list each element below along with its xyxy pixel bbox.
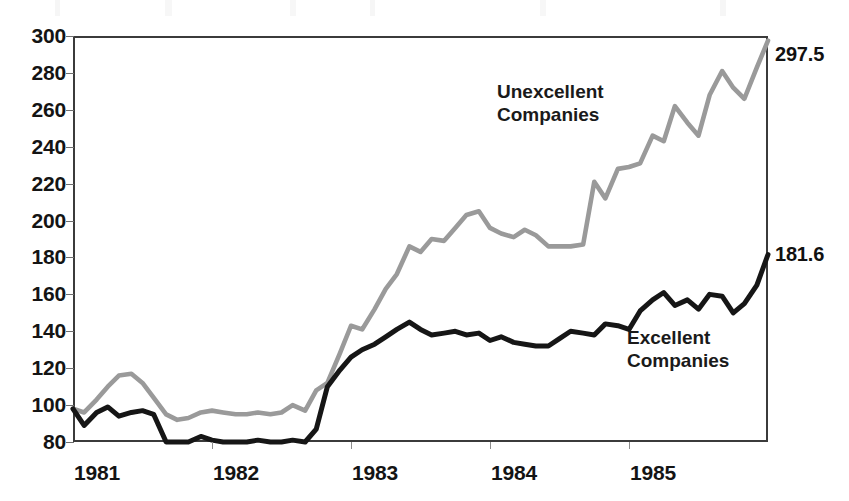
y-axis-tick-mark bbox=[66, 221, 74, 222]
chart-container: 30028026024022020018016014012010080 297.… bbox=[0, 0, 849, 501]
y-axis-tick-label: 80 bbox=[2, 431, 66, 452]
x-axis-tick-mark bbox=[490, 442, 491, 449]
end-value-label-excellent: 181.6 bbox=[775, 244, 824, 264]
y-axis-tick-label: 280 bbox=[2, 62, 66, 83]
y-axis-tick-mark bbox=[66, 294, 74, 295]
x-axis-tick-label: 1981 bbox=[74, 462, 120, 483]
annotation-excellent-line2: Companies bbox=[627, 349, 729, 372]
y-axis-tick-label: 140 bbox=[2, 320, 66, 341]
annotation-unexcellent-line1: Unexcellent bbox=[497, 80, 604, 103]
x-axis-tick-label: 1982 bbox=[213, 462, 259, 483]
x-axis-tick-mark bbox=[629, 442, 630, 449]
y-axis-tick-label: 200 bbox=[2, 210, 66, 231]
y-axis-tick-mark bbox=[66, 331, 74, 332]
annotation-excellent-line1: Excellent bbox=[627, 326, 729, 349]
y-axis-tick-label: 120 bbox=[2, 357, 66, 378]
y-axis-tick-mark bbox=[66, 442, 74, 443]
y-axis-tick-label: 100 bbox=[2, 394, 66, 415]
x-axis-tick-label: 1983 bbox=[352, 462, 398, 483]
y-axis-tick-mark bbox=[66, 184, 74, 185]
y-axis-tick-mark bbox=[66, 147, 74, 148]
y-axis: 30028026024022020018016014012010080 bbox=[0, 0, 66, 501]
x-axis-tick-label: 1984 bbox=[491, 462, 537, 483]
y-axis-tick-mark bbox=[66, 405, 74, 406]
series-annotation-excellent: Excellent Companies bbox=[627, 326, 729, 372]
y-axis-tick-label: 300 bbox=[2, 25, 66, 46]
y-axis-tick-label: 260 bbox=[2, 99, 66, 120]
series-annotation-unexcellent: Unexcellent Companies bbox=[497, 80, 604, 126]
y-axis-tick-label: 220 bbox=[2, 173, 66, 194]
y-axis-tick-mark bbox=[66, 110, 74, 111]
x-axis-tick-label: 1985 bbox=[630, 462, 676, 483]
y-axis-tick-label: 180 bbox=[2, 246, 66, 267]
x-axis-tick-mark bbox=[351, 442, 352, 449]
scan-bleed-artifact bbox=[0, 0, 849, 16]
y-axis-tick-mark bbox=[66, 36, 74, 37]
y-axis-tick-label: 160 bbox=[2, 283, 66, 304]
y-axis-tick-mark bbox=[66, 73, 74, 74]
x-axis-tick-mark bbox=[212, 442, 213, 449]
annotation-unexcellent-line2: Companies bbox=[497, 103, 604, 126]
y-axis-tick-label: 240 bbox=[2, 136, 66, 157]
y-axis-tick-mark bbox=[66, 257, 74, 258]
end-value-label-unexcellent: 297.5 bbox=[775, 44, 824, 64]
plot-area bbox=[73, 36, 768, 442]
y-axis-tick-mark bbox=[66, 368, 74, 369]
